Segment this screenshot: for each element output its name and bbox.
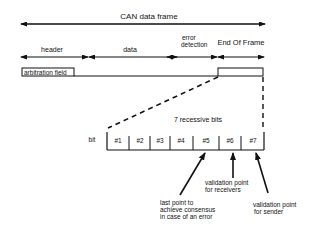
bit-3: #3 bbox=[156, 137, 164, 144]
bit-6: #6 bbox=[226, 137, 234, 144]
bit-2: #2 bbox=[136, 137, 144, 144]
bit-5: #5 bbox=[202, 137, 210, 144]
segment-eof-label: End Of Frame bbox=[217, 38, 264, 47]
annotation-bit6-line2: for receivers bbox=[205, 186, 242, 193]
bit-1: #1 bbox=[114, 137, 122, 144]
annotation-bit5-line3: in case of an error bbox=[160, 213, 213, 220]
annotation-bit5-line2: achieve consensus bbox=[160, 206, 216, 213]
bit-label: bit bbox=[89, 136, 96, 143]
recessive-bits-label: 7 recessive bits bbox=[174, 116, 223, 123]
frame-title: CAN data frame bbox=[120, 12, 178, 21]
bit-row bbox=[107, 132, 264, 150]
arrow-bit5 bbox=[180, 153, 205, 195]
segment-data-label: data bbox=[123, 46, 137, 53]
segment-detection-label: detection bbox=[181, 41, 208, 48]
eof-box bbox=[218, 68, 263, 76]
arbitration-field-label: arbitration field bbox=[24, 69, 67, 76]
arrow-bit7 bbox=[256, 153, 268, 193]
segment-header-label: header bbox=[41, 46, 63, 53]
can-frame-diagram: CAN data frame header data error detecti… bbox=[0, 0, 318, 239]
annotation-bit7-line2: for sender bbox=[254, 208, 284, 215]
bit-4: #4 bbox=[177, 137, 185, 144]
bit-7: #7 bbox=[249, 137, 257, 144]
segment-error-label: error bbox=[182, 34, 197, 41]
